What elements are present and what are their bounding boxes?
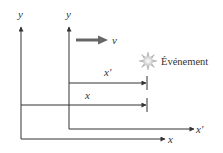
x-prime-measurement: x′: [69, 66, 147, 90]
y-axis-s-prime-label: y: [65, 8, 71, 20]
x-measurement-label: x: [84, 89, 90, 101]
velocity-label: v: [112, 34, 117, 46]
event-burst-icon: [139, 52, 157, 70]
frame-s-prime: y x′: [65, 8, 204, 135]
x-axis-s-label: x: [167, 133, 173, 145]
velocity-arrow: v: [76, 34, 117, 46]
y-axis-s-label: y: [17, 8, 23, 20]
frame-s: y x: [17, 8, 173, 145]
event-label: Événement: [161, 56, 208, 67]
x-measurement: x: [21, 89, 147, 112]
x-axis-s-prime-label: x′: [195, 123, 204, 135]
x-prime-measurement-label: x′: [103, 66, 112, 78]
reference-frames-diagram: y x y x′ v Événement x′ x: [0, 0, 223, 153]
